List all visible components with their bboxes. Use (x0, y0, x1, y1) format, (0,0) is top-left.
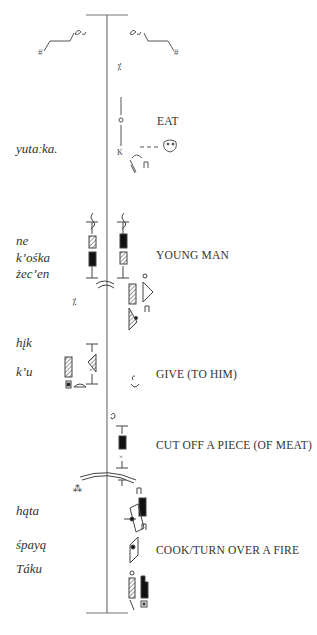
word-zecen: żec’en (16, 266, 49, 282)
cook-turn-symbols (124, 498, 148, 610)
svg-text:×: × (119, 453, 123, 461)
give-symbols: × (65, 344, 139, 388)
gloss-young-man: YOUNG MAN (156, 249, 229, 261)
word-hata: hąta (16, 503, 39, 519)
word-taku: Táku (16, 561, 42, 577)
svg-text:⁒: ⁒ (72, 296, 77, 307)
word-ku: k’u (16, 364, 33, 380)
young-man-symbols: ⁒ (72, 213, 153, 330)
staff (86, 15, 128, 613)
gloss-cut-off: CUT OFF A PIECE (OF MEAT) (156, 439, 312, 451)
opening-arm-symbols: # # ⁒ (38, 30, 179, 72)
word-hik: hįk (16, 335, 32, 351)
gloss-eat: EAT (157, 115, 179, 127)
eat-symbols: K (117, 97, 176, 173)
notation-staff-diagram: # # ⁒ K ⁒ (0, 0, 317, 635)
gloss-cook-turn: COOK/TURN OVER A FIRE (156, 544, 299, 556)
word-koska: k’ośka (16, 250, 50, 266)
word-ne: ne (16, 233, 28, 249)
svg-text:#: # (38, 47, 43, 57)
word-yutaka: yutaːka. (16, 141, 58, 157)
svg-text:×: × (89, 366, 93, 374)
svg-text:#: # (174, 47, 179, 57)
gloss-give: GIVE (TO HIM) (156, 368, 237, 380)
svg-text:⁂: ⁂ (73, 484, 82, 494)
svg-text:K: K (117, 148, 123, 157)
svg-text:⁒: ⁒ (117, 61, 122, 72)
word-spaya: śpayą (16, 537, 46, 553)
